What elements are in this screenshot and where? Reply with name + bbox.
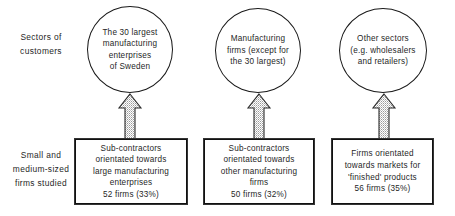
box-label-line: Sub-contractors: [221, 143, 298, 155]
row-label-line: firms studied: [2, 176, 80, 190]
box-label-line: Firms orientated: [345, 148, 421, 160]
arrow-up-icon-box3-to-circle3: [371, 93, 397, 141]
box-firm-count-line: 52 firms (33%): [93, 189, 169, 201]
circle-label-line: firms (except for: [227, 45, 289, 56]
box-node-sub-contractors-other-manufacturing: Sub-contractors orientated towards other…: [204, 139, 314, 204]
box-label-line: Sub-contractors: [93, 143, 169, 155]
circle-label: Other sectors (e.g. wholesalers and reta…: [344, 33, 421, 67]
row-label-line: medium-sized: [2, 162, 80, 176]
row-label-line: Sectors of: [2, 30, 80, 44]
box-node-sub-contractors-large-manufacturing: Sub-contractors orientated towards large…: [75, 139, 187, 204]
circle-label-line: and retailers): [350, 56, 415, 67]
circle-label-line: The 30 largest: [102, 27, 157, 38]
box-label: Sub-contractors orientated towards other…: [221, 143, 298, 201]
box-label-line: towards markets for: [345, 160, 421, 172]
circle-node-manufacturing-firms-except-30-largest: Manufacturing firms (except for the 30 l…: [215, 8, 301, 93]
box-label-line: 'finished' products: [345, 172, 421, 184]
box-node-firms-orientated-finished-products: Firms orientated towards markets for 'fi…: [332, 139, 433, 204]
arrow-up-icon-box1-to-circle1: [117, 93, 143, 141]
circle-label-line: Other sectors: [350, 33, 415, 44]
row-label-sectors-of-customers: Sectors of customers: [2, 30, 80, 58]
circle-node-the-30-largest-manufacturing-enterprises: The 30 largest manufacturing enterprises…: [87, 6, 173, 93]
circle-label-line: the 30 largest): [227, 56, 289, 67]
arrow-up-icon-box2-to-circle2: [246, 93, 272, 141]
row-label-line: Small and: [2, 148, 80, 162]
circle-label-line: enterprises: [102, 50, 157, 61]
circle-node-other-sectors-wholesalers-retailers: Other sectors (e.g. wholesalers and reta…: [339, 8, 427, 93]
circle-label-line: of Sweden: [102, 61, 157, 72]
box-label-line: firms: [221, 177, 298, 189]
circle-label-line: (e.g. wholesalers: [350, 45, 415, 56]
circle-label: The 30 largest manufacturing enterprises…: [96, 27, 163, 73]
box-label-line: orientated towards: [93, 154, 169, 166]
circle-label-line: manufacturing: [102, 38, 157, 49]
box-label-line: enterprises: [93, 177, 169, 189]
circle-label-line: Manufacturing: [227, 33, 289, 44]
circle-label: Manufacturing firms (except for the 30 l…: [221, 33, 295, 67]
box-label-line: orientated towards: [221, 154, 298, 166]
row-label-small-and-medium-sized-firms-studied: Small and medium-sized firms studied: [2, 148, 80, 190]
row-label-line: customers: [2, 44, 80, 58]
box-label: Sub-contractors orientated towards large…: [93, 143, 169, 201]
box-label: Firms orientated towards markets for 'fi…: [345, 148, 421, 194]
box-label-line: large manufacturing: [93, 166, 169, 178]
box-label-line: other manufacturing: [221, 166, 298, 178]
supplier-customer-flow-diagram: Sectors of customers Small and medium-si…: [0, 0, 455, 216]
box-firm-count-line: 50 firms (32%): [221, 189, 298, 201]
box-firm-count-line: 56 firms (35%): [345, 183, 421, 195]
